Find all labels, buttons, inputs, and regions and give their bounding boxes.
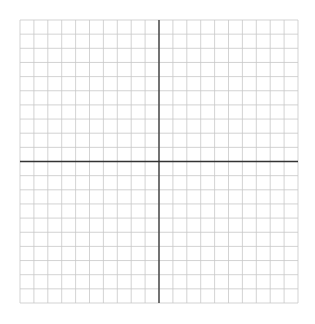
coordinate-grid [0, 0, 315, 324]
grid-canvas [0, 0, 315, 324]
